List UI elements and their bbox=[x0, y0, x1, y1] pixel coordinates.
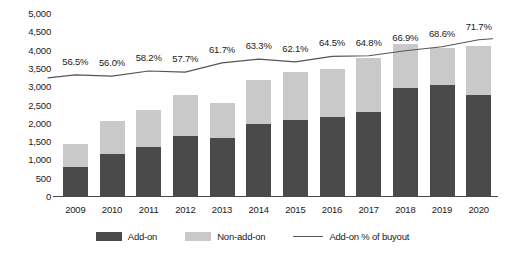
bar-segment-add-on bbox=[466, 95, 491, 196]
legend-item-label: Add-on % of buyout bbox=[329, 231, 409, 242]
legend-item-label: Non-add-on bbox=[217, 231, 265, 242]
y-axis-tick-label: 5,000 bbox=[28, 9, 51, 18]
bar-segment-non-add-on bbox=[356, 58, 381, 111]
bar-segment-non-add-on bbox=[466, 46, 491, 95]
line-value-label: 61.7% bbox=[209, 44, 235, 55]
bar-group bbox=[356, 58, 381, 196]
bar-segment-non-add-on bbox=[173, 95, 198, 135]
bar-segment-add-on bbox=[173, 136, 198, 196]
bar-segment-add-on bbox=[283, 120, 308, 196]
x-axis-tick-label: 2009 bbox=[65, 204, 85, 215]
line-value-label: 64.8% bbox=[356, 37, 382, 48]
legend-swatch-non-add-on bbox=[185, 232, 211, 241]
line-value-label: 63.3% bbox=[246, 40, 272, 51]
y-axis-tick-label: 2,500 bbox=[28, 100, 51, 109]
x-axis-tick-label: 2020 bbox=[468, 204, 488, 215]
x-axis-labels: 2009201020112012201320142015201620172018… bbox=[0, 200, 505, 218]
y-axis-tick-label: 1,500 bbox=[28, 137, 51, 146]
y-axis-tick-label: 1,000 bbox=[28, 155, 51, 164]
bar-group bbox=[210, 103, 235, 196]
chart-legend: Add-onNon-add-onAdd-on % of buyout bbox=[0, 226, 505, 246]
x-axis-tick-label: 2014 bbox=[248, 204, 268, 215]
bar-group bbox=[283, 72, 308, 196]
y-axis: 5,0004,5004,0003,5003,0002,5002,0001,500… bbox=[0, 0, 55, 196]
bar-segment-non-add-on bbox=[283, 72, 308, 120]
x-axis-tick-label: 2017 bbox=[358, 204, 378, 215]
bar-group bbox=[63, 144, 88, 196]
bar-group bbox=[100, 121, 125, 196]
bar-segment-add-on bbox=[393, 88, 418, 196]
bar-group bbox=[246, 80, 271, 196]
bar-segment-add-on bbox=[210, 138, 235, 196]
bar-segment-non-add-on bbox=[430, 48, 455, 86]
x-axis-tick-label: 2016 bbox=[322, 204, 342, 215]
x-axis-tick-label: 2018 bbox=[395, 204, 415, 215]
bar-group bbox=[393, 44, 418, 196]
bar-group bbox=[136, 110, 161, 196]
bar-segment-non-add-on bbox=[210, 103, 235, 138]
bar-segment-add-on bbox=[430, 85, 455, 196]
y-axis-tick-label: 4,500 bbox=[28, 27, 51, 36]
legend-item-label: Add-on bbox=[128, 231, 157, 242]
stacked-bar-chart: 5,0004,5004,0003,5003,0002,5002,0001,500… bbox=[0, 0, 505, 255]
bar-group bbox=[466, 46, 491, 196]
x-axis-line bbox=[55, 196, 498, 197]
bar-segment-add-on bbox=[136, 147, 161, 196]
line-value-label: 58.2% bbox=[136, 52, 162, 63]
bar-segment-non-add-on bbox=[320, 69, 345, 117]
line-value-label: 71.7% bbox=[466, 21, 492, 32]
legend-swatch-add-on bbox=[96, 232, 122, 241]
bar-segment-add-on bbox=[246, 124, 271, 196]
line-value-label: 57.7% bbox=[172, 53, 198, 64]
legend-item[interactable]: Non-add-on bbox=[185, 231, 265, 242]
line-value-label: 56.0% bbox=[99, 57, 125, 68]
y-axis-tick-label: 3,000 bbox=[28, 82, 51, 91]
bar-group bbox=[430, 48, 455, 196]
y-axis-tick-label: 2,000 bbox=[28, 118, 51, 127]
bar-segment-non-add-on bbox=[63, 144, 88, 166]
y-axis-tick-label: 500 bbox=[36, 173, 51, 182]
bar-series-container bbox=[57, 13, 497, 196]
line-value-label: 64.5% bbox=[319, 37, 345, 48]
line-value-label: 62.1% bbox=[282, 43, 308, 54]
bar-segment-non-add-on bbox=[393, 44, 418, 88]
legend-line-icon bbox=[293, 232, 323, 241]
legend-item[interactable]: Add-on % of buyout bbox=[293, 231, 409, 242]
y-axis-tick-label: 4,000 bbox=[28, 45, 51, 54]
bar-segment-add-on bbox=[63, 167, 88, 196]
legend-item[interactable]: Add-on bbox=[96, 231, 157, 242]
bar-group bbox=[173, 95, 198, 196]
line-value-label: 68.6% bbox=[429, 28, 455, 39]
x-axis-tick-label: 2012 bbox=[175, 204, 195, 215]
bar-segment-non-add-on bbox=[246, 80, 271, 125]
bar-segment-add-on bbox=[100, 154, 125, 196]
line-value-label: 56.5% bbox=[62, 56, 88, 67]
x-axis-tick-label: 2011 bbox=[139, 204, 159, 215]
bar-group bbox=[320, 69, 345, 196]
x-axis-tick-label: 2010 bbox=[102, 204, 122, 215]
x-axis-tick-label: 2019 bbox=[432, 204, 452, 215]
y-axis-tick-label: 3,500 bbox=[28, 63, 51, 72]
line-value-label: 66.9% bbox=[392, 32, 418, 43]
bar-segment-non-add-on bbox=[100, 121, 125, 154]
bar-segment-non-add-on bbox=[136, 110, 161, 147]
bar-segment-add-on bbox=[320, 117, 345, 196]
x-axis-origin-tick bbox=[53, 196, 57, 197]
x-axis-tick-label: 2013 bbox=[212, 204, 232, 215]
plot-area bbox=[57, 13, 497, 196]
x-axis-tick-label: 2015 bbox=[285, 204, 305, 215]
bar-segment-add-on bbox=[356, 112, 381, 196]
